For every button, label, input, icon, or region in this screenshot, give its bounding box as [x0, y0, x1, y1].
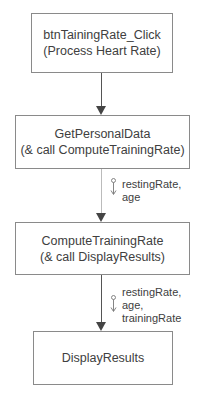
node-title: ComputeTrainingRate — [42, 233, 164, 249]
node-subtitle: (& call ComputeTrainingRate) — [20, 142, 184, 158]
node-subtitle: (Process Heart Rate) — [43, 43, 160, 59]
node-get-personal-data: GetPersonalData (& call ComputeTrainingR… — [15, 115, 190, 169]
node-display-results: DisplayResults — [33, 331, 173, 385]
edge-params: restingRate, age — [122, 178, 181, 204]
arrowhead-icon — [96, 322, 106, 331]
edge-params: restingRate, age, trainingRate — [122, 286, 181, 325]
param-label: age — [122, 191, 181, 204]
arrowhead-icon — [96, 106, 106, 115]
param-label: restingRate, — [122, 178, 181, 191]
node-title: DisplayResults — [62, 350, 145, 366]
node-title: GetPersonalData — [55, 126, 151, 142]
connector-line — [101, 169, 102, 213]
node-compute-training-rate: ComputeTrainingRate (& call DisplayResul… — [15, 222, 190, 275]
param-label: restingRate, — [122, 286, 181, 299]
connector-line — [101, 73, 102, 106]
param-label: trainingRate — [122, 312, 181, 325]
param-label: age, — [122, 299, 181, 312]
node-subtitle: (& call DisplayResults) — [40, 249, 165, 265]
node-title: btnTainingRate_Click — [43, 27, 160, 43]
data-couple-icon — [110, 295, 117, 313]
data-couple-icon — [110, 178, 117, 196]
connector-line — [101, 275, 102, 322]
arrowhead-icon — [96, 213, 106, 222]
node-btn-training-rate-click: btnTainingRate_Click (Process Heart Rate… — [31, 13, 173, 73]
